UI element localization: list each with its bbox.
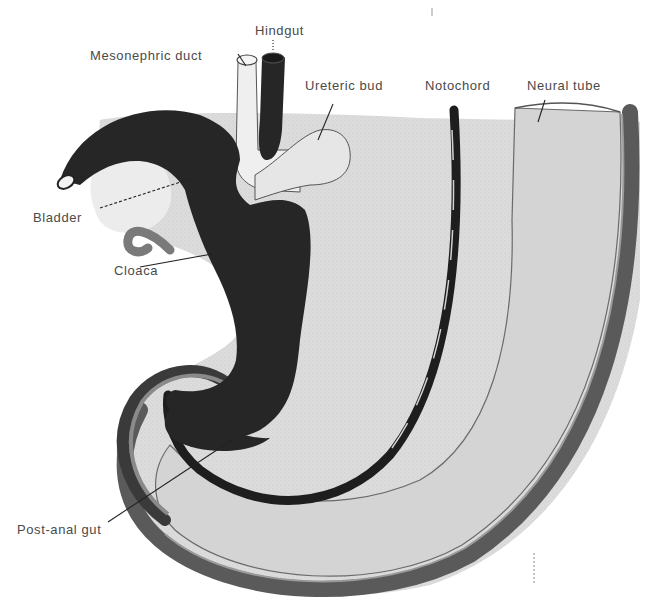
hindgut-opening (262, 53, 284, 63)
label-bladder: Bladder (33, 211, 82, 224)
label-notochord: Notochord (425, 79, 490, 92)
label-neural-tube: Neural tube (527, 79, 601, 92)
label-post-anal-gut: Post-anal gut (17, 523, 101, 536)
label-mesonephric-duct: Mesonephric duct (90, 49, 202, 62)
label-cloaca: Cloaca (114, 264, 158, 277)
embryo-diagram: Hindgut Mesonephric duct Ureteric bud No… (0, 0, 661, 609)
label-ureteric-bud: Ureteric bud (305, 79, 383, 92)
label-hindgut: Hindgut (255, 24, 304, 37)
